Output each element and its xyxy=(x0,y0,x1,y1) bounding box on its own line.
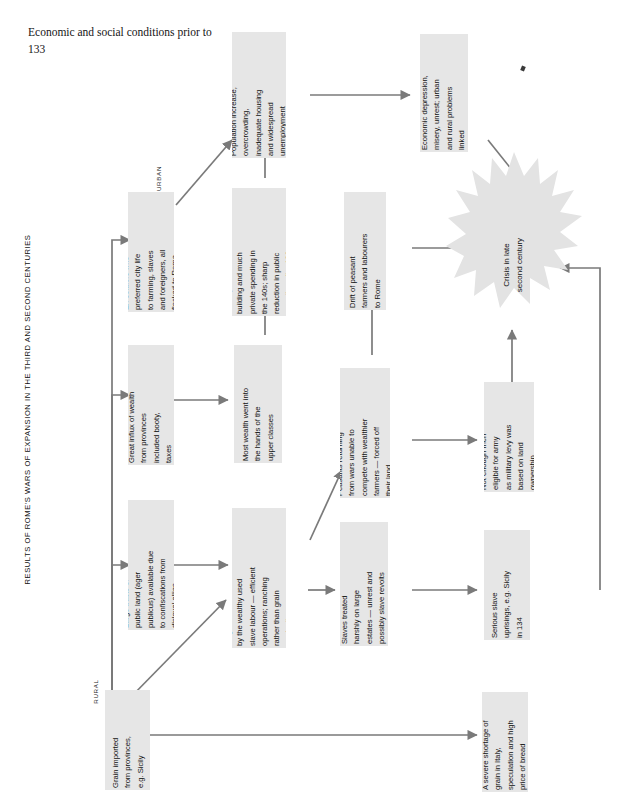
node-slave-uprisings[interactable]: Serious slave uprisings, e.g. Sicily in … xyxy=(484,530,530,640)
node-ex-soldiers[interactable]: Ex-soldiers who preferred city life to f… xyxy=(128,192,174,312)
node-population-increase[interactable]: Population increase, overcrowding, inade… xyxy=(232,32,286,158)
node-not-enough-men[interactable]: Not enough men eligible for army as mili… xyxy=(484,382,534,492)
node-influx-wealth[interactable]: Great influx of wealth from provinces in… xyxy=(128,345,174,465)
node-label: Large tracts of public land (ager public… xyxy=(128,502,174,628)
node-label: Large estates owned by the wealthy used … xyxy=(232,510,286,646)
section-label-rural: RURAL xyxy=(92,679,99,703)
node-peasants-returning[interactable]: Peasants returning from wars unable to c… xyxy=(340,368,390,498)
node-boom-period[interactable]: Boom period in building and much private… xyxy=(232,188,286,316)
node-label: Serious slave uprisings, e.g. Sicily in … xyxy=(489,532,526,638)
node-drift-of-peasants[interactable]: Drift of peasant farmers and labourers t… xyxy=(344,192,386,310)
node-label: Ex-soldiers who preferred city life to f… xyxy=(128,194,174,310)
node-economic-depression[interactable]: Economic depression, misery, unrest; urb… xyxy=(420,34,468,152)
node-public-land[interactable]: Large tracts of public land (ager public… xyxy=(128,500,174,630)
node-label: Peasants returning from wars unable to c… xyxy=(340,370,390,496)
stray-ink-mark xyxy=(520,65,526,71)
node-slaves-treated[interactable]: Slaves treated harshly on large estates … xyxy=(340,522,388,646)
node-label: Slaves treated harshly on large estates … xyxy=(340,524,388,644)
node-most-wealth[interactable]: Most wealth went into the hands of the u… xyxy=(234,345,282,463)
node-label: Great influx of wealth from provinces in… xyxy=(128,347,174,463)
crisis-label: Crisis in late second century xyxy=(501,238,527,292)
node-label: A severe shortage of grain in Italy, spe… xyxy=(482,694,528,790)
node-grain-imported[interactable]: Grain imported from provinces, e.g. Sici… xyxy=(105,690,150,790)
node-label: Population increase, overcrowding, inade… xyxy=(232,34,286,156)
node-label: Grain imported from provinces, e.g. Sici… xyxy=(109,692,146,788)
node-grain-shortage[interactable]: A severe shortage of grain in Italy, spe… xyxy=(482,692,528,792)
node-label: Boom period in building and much private… xyxy=(232,190,286,314)
section-label-urban: URBAN xyxy=(155,166,162,191)
node-label: Not enough men eligible for army as mili… xyxy=(484,384,534,490)
flowchart-diagram: RURAL URBAN Grain imported from province… xyxy=(0,0,622,796)
node-crisis-starburst[interactable]: Crisis in late second century xyxy=(446,150,582,380)
node-label: Drift of peasant farmers and labourers t… xyxy=(347,194,384,308)
node-large-estates[interactable]: Large estates owned by the wealthy used … xyxy=(232,508,286,648)
node-label: Economic depression, misery, unrest; urb… xyxy=(420,36,468,150)
node-label: Most wealth went into the hands of the u… xyxy=(240,347,277,461)
